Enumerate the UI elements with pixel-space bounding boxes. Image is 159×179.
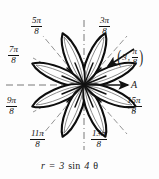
- angle-label-5pi-8: 5π 8: [31, 16, 42, 36]
- angle-label-13pi-8: 13π 8: [91, 129, 107, 149]
- polar-rose-figure: 5π 8 3π 8 7π 8 9π 8 11π 8: [0, 0, 159, 179]
- caption-function: sin: [67, 160, 81, 171]
- close-paren: ): [139, 49, 143, 65]
- caption-multiple: 4: [84, 160, 89, 171]
- angle-label-9pi-8-numerator: 9π: [6, 96, 17, 105]
- angle-label-15pi-8-denominator: 8: [126, 107, 142, 116]
- caption-variable: r: [41, 160, 45, 171]
- angle-label-15pi-8: 15π 8: [126, 96, 142, 116]
- angle-label-9pi-8-denominator: 8: [6, 107, 17, 116]
- polar-axis-label: A: [131, 79, 137, 90]
- caption-angle: θ: [92, 160, 99, 171]
- point-theta-numerator: π: [132, 47, 139, 56]
- caption-equals: =: [48, 160, 57, 171]
- angle-label-15pi-8-numerator: 15π: [126, 96, 142, 105]
- angle-label-7pi-8-numerator: 7π: [8, 45, 19, 54]
- angle-label-7pi-8: 7π 8: [8, 45, 19, 65]
- equation-caption: r = 3 sin 4 θ: [41, 160, 99, 171]
- point-label: ( 3 , π 8 ): [116, 47, 144, 67]
- open-paren: (: [117, 49, 121, 65]
- angle-label-11pi-8-numerator: 11π: [30, 129, 45, 138]
- angle-label-3pi-8-denominator: 8: [99, 27, 110, 36]
- angle-label-13pi-8-numerator: 13π: [91, 129, 107, 138]
- caption-coefficient: 3: [59, 160, 64, 171]
- angle-label-3pi-8: 3π 8: [99, 16, 110, 36]
- angle-label-7pi-8-denominator: 8: [8, 56, 19, 65]
- angle-label-5pi-8-numerator: 5π: [31, 16, 42, 25]
- point-theta-denominator: 8: [132, 58, 139, 67]
- angle-label-11pi-8: 11π 8: [30, 129, 45, 149]
- angle-label-3pi-8-numerator: 3π: [99, 16, 110, 25]
- angle-label-9pi-8: 9π 8: [6, 96, 17, 116]
- angle-label-11pi-8-denominator: 8: [30, 140, 45, 149]
- angle-label-5pi-8-denominator: 8: [31, 27, 42, 36]
- angle-label-13pi-8-denominator: 8: [91, 140, 107, 149]
